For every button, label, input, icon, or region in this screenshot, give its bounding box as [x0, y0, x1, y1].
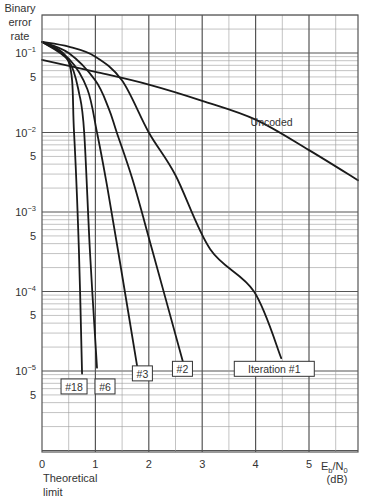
x-axis-title: Eb/N0 (dB) — [321, 460, 348, 485]
y-axis-title-line-1: Binary — [4, 2, 36, 14]
theoretical-limit-annotation: Theoretical limit — [43, 472, 97, 498]
y-tick-label: 5 — [30, 71, 36, 83]
series-label-text: Iteration #1 — [248, 363, 301, 375]
x-axis-ticks: 012345 — [39, 458, 312, 470]
curve-18 — [42, 42, 82, 374]
x-tick-label: 3 — [199, 458, 205, 470]
y-tick-label: 5 — [30, 150, 36, 162]
y-axis-title: Binary error rate — [4, 2, 36, 42]
y-tick-label: 5 — [30, 389, 36, 401]
x-tick-label: 2 — [146, 458, 152, 470]
theoretical-limit-line-2: limit — [43, 486, 63, 498]
x-tick-label: 4 — [253, 458, 259, 470]
series-label-uncoded: Uncoded — [251, 116, 293, 128]
x-tick-label: 1 — [92, 458, 98, 470]
x-tick-label: 5 — [306, 458, 312, 470]
series-label-6: #6 — [95, 379, 115, 394]
series-label-2: #2 — [172, 361, 192, 376]
y-tick-label: 5 — [30, 230, 36, 242]
x-axis-title-unit: (dB) — [327, 473, 348, 485]
series-label-3: #3 — [132, 366, 152, 381]
curve-3 — [42, 42, 138, 372]
series-label-text: #2 — [177, 363, 189, 375]
x-tick-label: 0 — [39, 458, 45, 470]
y-tick-label: 10−5 — [15, 363, 36, 377]
series-label-text: #18 — [65, 381, 83, 393]
series-label-text: Uncoded — [251, 116, 293, 128]
y-tick-label: 10−2 — [15, 125, 36, 139]
y-tick-label: 10−3 — [15, 204, 36, 218]
curve-uncoded — [42, 60, 358, 181]
series-label-text: #3 — [137, 368, 149, 380]
series-label-18: #18 — [61, 379, 87, 394]
y-axis-ticks: 10−1510−2510−3510−4510−55 — [15, 45, 36, 401]
series-labels: UncodedIteration #1#2#3#6#18 — [61, 116, 314, 394]
y-tick-label: 10−4 — [15, 284, 36, 298]
y-axis-title-line-3: rate — [11, 30, 30, 42]
chart-canvas: UncodedIteration #1#2#3#6#18 10−1510−251… — [0, 0, 369, 500]
curve-2 — [42, 42, 183, 362]
y-tick-label: 5 — [30, 309, 36, 321]
theoretical-limit-line-1: Theoretical — [43, 472, 97, 484]
curves — [42, 42, 358, 374]
series-label-iteration-1: Iteration #1 — [234, 361, 314, 376]
series-label-text: #6 — [99, 381, 111, 393]
y-axis-title-line-2: error — [8, 16, 32, 28]
y-tick-label: 10−1 — [15, 45, 36, 59]
ber-chart: UncodedIteration #1#2#3#6#18 10−1510−251… — [0, 0, 369, 500]
